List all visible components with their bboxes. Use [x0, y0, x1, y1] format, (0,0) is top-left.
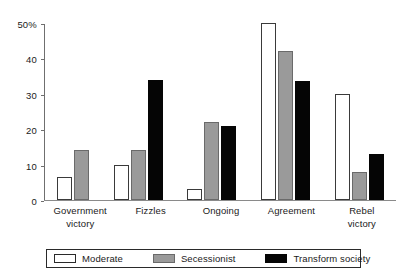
bar-transform	[148, 80, 163, 200]
x-axis-line	[44, 200, 396, 201]
bar-transform	[221, 126, 236, 200]
legend-swatch-transform	[265, 254, 287, 263]
bar-moderate	[335, 94, 350, 200]
y-tick-mark	[41, 59, 44, 60]
chart-legend: ModerateSecessionistTransform society	[46, 249, 361, 268]
bar-secessionist	[204, 122, 219, 200]
y-tick-label: 20	[26, 125, 37, 136]
y-tick-label: 40	[26, 54, 37, 65]
x-axis-label-line: Fizzles	[115, 205, 185, 218]
bar-group	[261, 24, 310, 200]
legend-swatch-secessionist	[153, 254, 175, 263]
y-tick-mark	[41, 166, 44, 167]
x-axis-label-line: Agreement	[256, 205, 326, 218]
bar-secessionist	[74, 150, 89, 200]
bar-secessionist	[131, 150, 146, 200]
legend-label: Transform society	[293, 253, 370, 264]
x-axis-label: Agreement	[256, 205, 326, 230]
bar-moderate	[187, 189, 202, 200]
bar-group	[187, 24, 236, 200]
legend-label: Secessionist	[181, 253, 236, 264]
bar-group	[335, 24, 384, 200]
plot-area: 50%403020100	[44, 24, 396, 201]
x-axis-label-line: Government	[45, 205, 115, 218]
x-axis-label: Ongoing	[186, 205, 256, 230]
y-tick-label: 10	[26, 160, 37, 171]
bar-group	[114, 24, 163, 200]
y-tick-mark	[41, 24, 44, 25]
legend-item: Transform society	[265, 253, 370, 264]
x-axis-labels: GovernmentvictoryFizzlesOngoingAgreement…	[45, 205, 397, 230]
bar-moderate	[114, 165, 129, 200]
legend-item: Moderate	[54, 253, 123, 264]
bar-group	[57, 24, 89, 200]
bar-secessionist	[278, 51, 293, 200]
legend-swatch-moderate	[54, 254, 76, 263]
bar-chart: 50%403020100 GovernmentvictoryFizzlesOng…	[0, 0, 409, 280]
y-tick-mark	[41, 95, 44, 96]
x-axis-label: Fizzles	[115, 205, 185, 230]
x-axis-label-line: Rebel	[327, 205, 397, 218]
x-axis-label-line: victory	[327, 218, 397, 231]
x-axis-label-line: Ongoing	[186, 205, 256, 218]
y-tick-mark	[41, 130, 44, 131]
x-axis-label: Governmentvictory	[45, 205, 115, 230]
bar-moderate	[261, 23, 276, 200]
y-tick-label: 0	[32, 196, 37, 207]
legend-item: Secessionist	[153, 253, 236, 264]
bar-secessionist	[352, 172, 367, 200]
bar-transform	[295, 81, 310, 200]
x-axis-label: Rebelvictory	[327, 205, 397, 230]
y-tick-label: 30	[26, 89, 37, 100]
x-axis-label-line: victory	[45, 218, 115, 231]
y-tick-label: 50%	[17, 19, 37, 30]
legend-label: Moderate	[82, 253, 123, 264]
y-tick-mark	[41, 201, 44, 202]
bar-groups	[45, 24, 396, 200]
bar-transform	[369, 154, 384, 200]
bar-moderate	[57, 177, 72, 200]
